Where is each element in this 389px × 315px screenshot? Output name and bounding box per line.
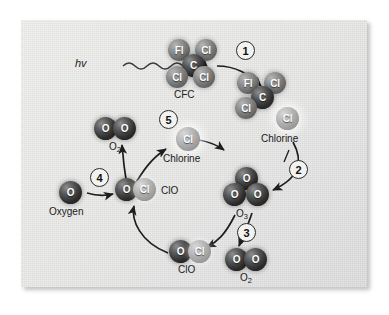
- atom-chlorine-right: Cl: [276, 107, 299, 130]
- label-clo-middle: ClO: [161, 185, 178, 196]
- atom-oxygen-single: O: [59, 181, 82, 204]
- label-ozone: O3: [236, 208, 248, 219]
- atom-clo-lower-cl: Cl: [188, 240, 211, 263]
- atom-chlorine-middle: Cl: [176, 127, 200, 151]
- label-o2-lower: O2: [240, 272, 252, 283]
- label-clo-lower: ClO: [178, 264, 195, 275]
- step-badge-1: 1: [236, 41, 255, 60]
- label-o2-lower-sub: 2: [248, 276, 252, 285]
- arrow-chlorine-recycle: [199, 140, 224, 150]
- label-cfc: CFC: [174, 89, 195, 100]
- step-badge-5: 5: [159, 110, 178, 129]
- step-badge-3: 3: [237, 223, 256, 242]
- step-badge-4: 4: [90, 168, 109, 187]
- label-ozone-sub: 3: [244, 212, 248, 221]
- arrow-chlorine-right-tick: [284, 150, 289, 162]
- step-badge-2: 2: [289, 160, 308, 179]
- atom-o2-lower-right: O: [244, 248, 267, 271]
- label-ozone-base: O: [236, 208, 244, 219]
- atom-cfc-cl-bottom-left: Cl: [166, 66, 188, 88]
- atom-ozone-right: O: [246, 183, 269, 206]
- label-o2-lower-base: O: [240, 272, 248, 283]
- ozone-cycle-figure: hv Fl Cl C Cl Cl CFC 1 Fl Cl C Cl Cl Chl…: [0, 0, 389, 315]
- label-chlorine-middle: Chlorine: [163, 153, 200, 164]
- label-o2-upper-sub: 2: [117, 145, 121, 154]
- photon-label: hv: [75, 57, 87, 69]
- atom-o2-upper-right: O: [113, 117, 136, 140]
- arrow-o3-to-clo: [207, 215, 235, 247]
- arrow-step-4: [87, 193, 113, 195]
- atom-cfc-cl-bottom-right: Cl: [193, 66, 215, 88]
- label-o2-upper: O2: [109, 141, 121, 152]
- label-o2-upper-base: O: [109, 141, 117, 152]
- diagram-panel: hv Fl Cl C Cl Cl CFC 1 Fl Cl C Cl Cl Chl…: [21, 20, 367, 287]
- arrow-clo-to-clo: [133, 206, 168, 253]
- atom-clo-middle-cl: Cl: [133, 178, 156, 201]
- atom-ozone-left: O: [223, 183, 246, 206]
- label-oxygen: Oxygen: [49, 206, 83, 217]
- label-chlorine-right: Chlorine: [261, 133, 298, 144]
- diagram-canvas: hv Fl Cl C Cl Cl CFC 1 Fl Cl C Cl Cl Chl…: [21, 20, 367, 287]
- atom-fragment-cl-bottom: Cl: [235, 97, 257, 119]
